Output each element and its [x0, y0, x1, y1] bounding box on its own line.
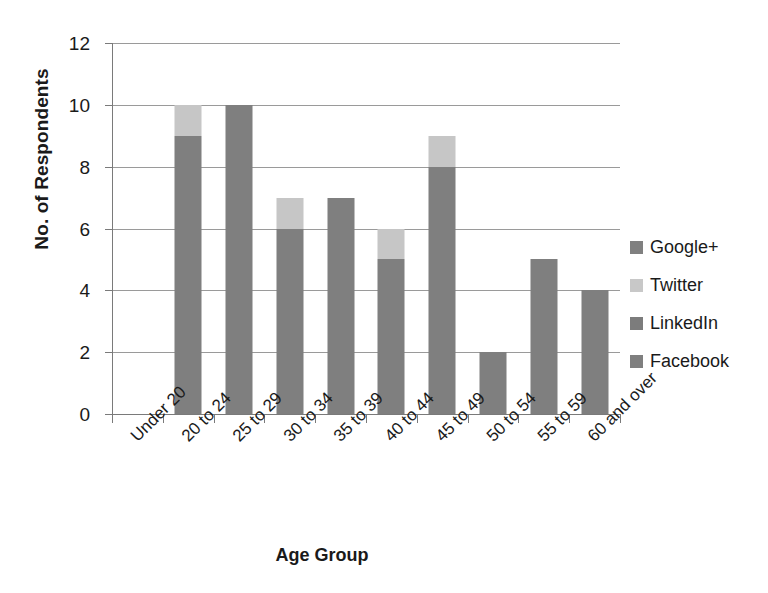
- y-axis-tick-mark: [105, 43, 113, 44]
- legend-swatch-icon: [630, 279, 643, 292]
- x-axis-title-text: Age Group: [276, 545, 369, 565]
- chart-legend: Google+TwitterLinkedInFacebook: [630, 238, 729, 370]
- bar-slot: [569, 43, 620, 414]
- stacked-bar[interactable]: [276, 198, 303, 414]
- bar-segment-twitter[interactable]: [276, 198, 303, 229]
- legend-label: Facebook: [650, 352, 729, 370]
- y-axis-tick-mark: [105, 167, 113, 168]
- stacked-bar[interactable]: [530, 259, 557, 414]
- bar-segment-facebook[interactable]: [378, 259, 405, 414]
- x-axis-title: Age Group: [0, 545, 768, 566]
- y-axis-tick-label: 2: [44, 343, 90, 362]
- legend-swatch-icon: [630, 355, 643, 368]
- y-axis-tick-label: 8: [44, 157, 90, 176]
- legend-swatch-icon: [630, 241, 643, 254]
- bar-slot: [315, 43, 366, 414]
- bar-segment-twitter[interactable]: [429, 136, 456, 167]
- bar-slot: [264, 43, 315, 414]
- bar-slot: [417, 43, 468, 414]
- bars-container: [112, 43, 620, 414]
- stacked-bar[interactable]: [429, 136, 456, 414]
- stacked-bar[interactable]: [225, 105, 252, 414]
- stacked-bar[interactable]: [327, 198, 354, 414]
- bar-segment-facebook[interactable]: [175, 136, 202, 414]
- legend-item-twitter[interactable]: Twitter: [630, 276, 729, 294]
- x-axis-tick-mark: [112, 414, 113, 423]
- legend-item-google-plus[interactable]: Google+: [630, 238, 729, 256]
- legend-label: Twitter: [650, 276, 703, 294]
- stacked-bar[interactable]: [378, 229, 405, 415]
- y-axis-tick-label: 12: [44, 34, 90, 53]
- stacked-bar-chart: No. of Respondents 024681012 Under 2020 …: [0, 0, 768, 593]
- legend-item-linkedin[interactable]: LinkedIn: [630, 314, 729, 332]
- y-axis-tick-label: 6: [44, 219, 90, 238]
- y-axis-tick-label: 0: [44, 405, 90, 424]
- bar-slot: [366, 43, 417, 414]
- y-axis-tick-label: 4: [44, 281, 90, 300]
- y-axis-tick-mark: [105, 414, 113, 415]
- bar-slot: [112, 43, 163, 414]
- legend-item-facebook[interactable]: Facebook: [630, 352, 729, 370]
- bar-segment-facebook[interactable]: [429, 167, 456, 414]
- y-axis-tick-mark: [105, 229, 113, 230]
- bar-segment-facebook[interactable]: [276, 229, 303, 415]
- bar-slot: [214, 43, 265, 414]
- y-axis-tick-label: 10: [44, 95, 90, 114]
- bar-segment-twitter[interactable]: [175, 105, 202, 136]
- legend-label: LinkedIn: [650, 314, 718, 332]
- legend-label: Google+: [650, 238, 719, 256]
- legend-swatch-icon: [630, 317, 643, 330]
- bar-slot: [468, 43, 519, 414]
- bar-segment-facebook[interactable]: [327, 198, 354, 414]
- bar-slot: [518, 43, 569, 414]
- bar-segment-twitter[interactable]: [378, 229, 405, 260]
- bar-segment-facebook[interactable]: [225, 105, 252, 414]
- y-axis-tick-mark: [105, 352, 113, 353]
- y-axis-tick-mark: [105, 290, 113, 291]
- bar-segment-facebook[interactable]: [530, 259, 557, 414]
- y-axis-tick-labels: 024681012: [44, 0, 90, 593]
- bar-slot: [163, 43, 214, 414]
- y-axis-tick-mark: [105, 105, 113, 106]
- stacked-bar[interactable]: [175, 105, 202, 414]
